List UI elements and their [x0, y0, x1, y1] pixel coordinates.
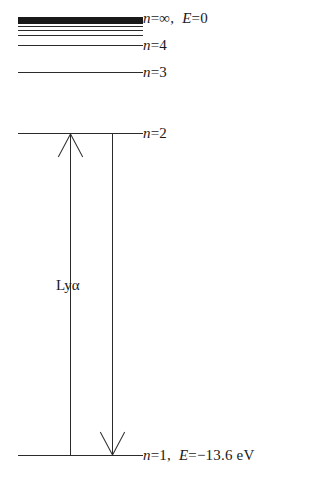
level-label-n4-n: n [143, 37, 151, 53]
level-label-n4-value: =4 [151, 37, 167, 53]
transition-arrow-down-shaft [112, 134, 113, 455]
level-line-n3 [18, 72, 143, 73]
transition-arrow-up-head-left [58, 134, 71, 157]
level-label-n1: n=1, E=−13.6 eV [143, 448, 255, 463]
transition-arrow-up-head-right [70, 134, 83, 157]
level-label-n2: n=2 [143, 126, 167, 141]
level-line-n2 [18, 133, 143, 134]
level-label-n1-energy: =−13.6 eV [188, 447, 254, 463]
level-label-n2-n: n [143, 125, 151, 141]
level-label-continuum: n=∞, E=0 [143, 11, 208, 26]
continuum-band [18, 17, 143, 24]
level-line-n4 [18, 45, 143, 46]
level-label-n1-n: n [143, 447, 151, 463]
transition-arrow-down-head-left [100, 432, 113, 455]
level-label-continuum-n: n [143, 10, 151, 26]
level-label-continuum-energy: =0 [192, 10, 208, 26]
energy-level-diagram: n=∞, E=0 n=4 n=3 n=2 n=1, E=−13.6 eV Lyα [0, 0, 336, 486]
level-label-continuum-e: E [182, 10, 191, 26]
level-label-n4: n=4 [143, 38, 167, 53]
level-label-n3-n: n [143, 64, 151, 80]
level-label-continuum-value: =∞, [151, 10, 175, 26]
transition-arrow-down-head-right [112, 432, 125, 455]
level-label-n1-e: E [179, 447, 188, 463]
converging-level-line [18, 30, 143, 31]
transition-arrow-up-shaft [70, 134, 71, 455]
converging-level-line [18, 35, 143, 36]
level-label-n3-value: =3 [151, 64, 167, 80]
transition-label-lyman-alpha: Lyα [56, 278, 80, 293]
level-label-n2-value: =2 [151, 125, 167, 141]
level-label-n3: n=3 [143, 65, 167, 80]
level-label-n1-value: =1, [151, 447, 171, 463]
level-line-n1 [18, 455, 143, 456]
converging-level-line [18, 26, 143, 27]
